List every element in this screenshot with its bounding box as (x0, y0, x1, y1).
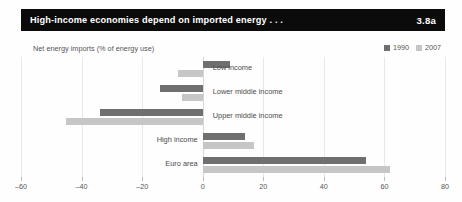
x-tick-label--60: –60 (15, 182, 27, 191)
legend-swatch-2007 (416, 45, 422, 51)
x-tick-label--40: –40 (76, 182, 88, 191)
x-tick-label-20: 20 (259, 182, 267, 191)
bar-high-income-1990 (203, 133, 245, 140)
legend-label-2007: 2007 (425, 43, 441, 52)
x-tick-80 (445, 177, 446, 181)
chart-number-badge: 3.8a (417, 15, 436, 26)
legend-label-1990: 1990 (393, 43, 409, 52)
x-tick-60 (384, 177, 385, 181)
category-label-euro-area: Euro area (165, 159, 197, 168)
bar-low-income-2007 (178, 70, 202, 77)
category-label-lower-middle-income: Lower middle income (213, 87, 283, 96)
category-label-upper-middle-income: Upper middle income (213, 111, 283, 120)
gridline-60 (384, 57, 385, 177)
bar-high-income-2007 (203, 142, 254, 149)
x-tick-label-60: 60 (380, 182, 388, 191)
gridline-80 (445, 57, 446, 177)
x-tick-20 (263, 177, 264, 181)
x-tick--20 (142, 177, 143, 181)
x-tick--40 (82, 177, 83, 181)
legend-item-2007: 2007 (416, 43, 441, 52)
bar-euro-area-2007 (203, 166, 391, 173)
x-tick-label-40: 40 (320, 182, 328, 191)
bar-upper-middle-income-2007 (66, 118, 202, 125)
x-axis: –60–40–20020406080 (21, 177, 445, 197)
chart-title: High-income economies depend on imported… (30, 15, 283, 25)
bar-upper-middle-income-1990 (100, 109, 203, 116)
chart-legend: 1990 2007 (384, 43, 441, 52)
legend-item-1990: 1990 (384, 43, 409, 52)
plot-area: Low incomeLower middle incomeUpper middl… (21, 57, 445, 177)
x-tick-label--20: –20 (136, 182, 148, 191)
x-tick--60 (21, 177, 22, 181)
figure-panel: High-income economies depend on imported… (0, 0, 462, 202)
category-label-low-income: Low income (213, 63, 252, 72)
legend-swatch-1990 (384, 45, 390, 51)
bar-euro-area-1990 (203, 157, 367, 164)
chart-subtitle: Net energy imports (% of energy use) (33, 44, 154, 53)
x-tick-0 (203, 177, 204, 181)
category-label-high-income: High income (157, 135, 198, 144)
x-tick-label-0: 0 (201, 182, 205, 191)
bar-lower-middle-income-1990 (160, 85, 202, 92)
chart-header-band: High-income economies depend on imported… (21, 9, 445, 31)
bar-lower-middle-income-2007 (182, 94, 203, 101)
gridline--60 (21, 57, 22, 177)
x-tick-label-80: 80 (441, 182, 449, 191)
x-tick-40 (324, 177, 325, 181)
